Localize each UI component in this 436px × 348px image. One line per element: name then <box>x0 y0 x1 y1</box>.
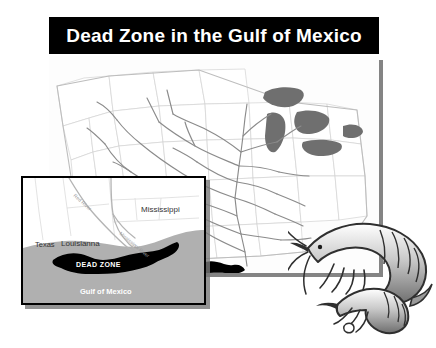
label-louisianna: Louisianna <box>61 239 100 248</box>
label-texas: Texas <box>35 240 55 249</box>
shrimp-lower <box>316 289 408 333</box>
shrimp-eye <box>318 245 322 249</box>
gulf-coast-inset-graphic: Texas Louisianna Mississippi Red River M… <box>23 178 204 303</box>
label-gulf-of-mexico: Gulf of Mexico <box>80 287 132 296</box>
page-title: Dead Zone in the Gulf of Mexico <box>66 25 361 47</box>
label-dead-zone: DEAD ZONE <box>76 261 121 268</box>
title-banner: Dead Zone in the Gulf of Mexico <box>49 17 379 54</box>
gulf-coast-inset-map: Texas Louisianna Mississippi Red River M… <box>21 176 206 305</box>
shrimp-graphic <box>288 212 434 336</box>
shrimp-antennae <box>288 226 310 294</box>
label-mississippi: Mississippi <box>141 205 180 214</box>
shrimp-illustration <box>288 212 434 336</box>
